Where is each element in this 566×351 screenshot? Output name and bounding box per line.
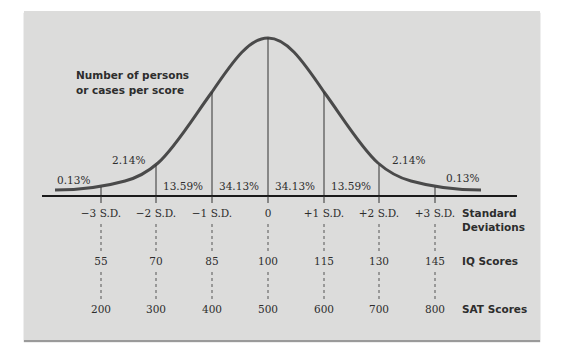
sat-value: 300 — [146, 303, 166, 315]
sd-label-plus2: +2 S.D. — [359, 207, 399, 219]
pct-13-left: 13.59% — [163, 180, 203, 192]
axis-ticks — [101, 196, 435, 203]
sd-row-label-line1: Standard — [462, 207, 516, 219]
pct-2-right: 2.14% — [392, 154, 425, 166]
iq-value: 115 — [314, 255, 334, 267]
pct-34-right: 34.13% — [275, 180, 315, 192]
sat-value: 200 — [91, 303, 111, 315]
iq-value: 85 — [205, 255, 218, 267]
sd-row-label-line2: Deviations — [462, 221, 525, 233]
sd-label-minus2: −2 S.D. — [136, 207, 176, 219]
sat-value: 400 — [202, 303, 222, 315]
pct-34-left: 34.13% — [219, 180, 259, 192]
pct-2-left: 2.14% — [112, 154, 145, 166]
sd-label-plus3: +3 S.D. — [415, 207, 455, 219]
iq-value: 55 — [94, 255, 107, 267]
sat-value: 500 — [258, 303, 278, 315]
sd-label-minus1: −1 S.D. — [192, 207, 232, 219]
pct-tail-right: 0.13% — [446, 172, 479, 184]
sat-value: 600 — [314, 303, 334, 315]
iq-row-label: IQ Scores — [462, 255, 518, 267]
sd-label-plus1: +1 S.D. — [304, 207, 344, 219]
sat-value: 700 — [369, 303, 389, 315]
iq-value: 145 — [425, 255, 445, 267]
iq-value: 100 — [258, 255, 278, 267]
pct-13-right: 13.59% — [331, 180, 371, 192]
sd-label-mean: 0 — [265, 207, 272, 219]
iq-value: 130 — [369, 255, 389, 267]
y-axis-label-line1: Number of persons — [76, 69, 189, 81]
iq-value: 70 — [149, 255, 162, 267]
sd-label-minus3: −3 S.D. — [81, 207, 121, 219]
sat-value: 800 — [425, 303, 445, 315]
y-axis-label-line2: or cases per score — [76, 84, 184, 96]
sat-row-label: SAT Scores — [462, 303, 527, 315]
pct-tail-left: 0.13% — [57, 174, 90, 186]
normal-distribution-chart: Number of persons or cases per score 0.1… — [0, 0, 566, 351]
